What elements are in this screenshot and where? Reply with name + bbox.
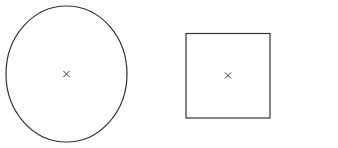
canvas-background: [0, 0, 338, 148]
drawing-canvas: [0, 0, 338, 148]
